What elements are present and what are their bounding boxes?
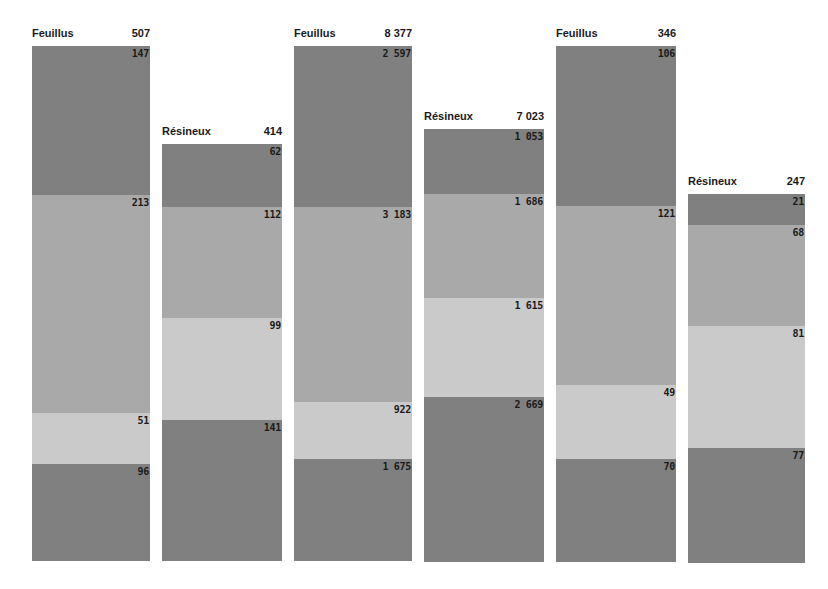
bar-rsineux-5: Résineux24721688177 (688, 194, 805, 563)
bar-segment: 121 (556, 206, 676, 385)
segment-value-label: 77 (793, 450, 804, 461)
bar-total-value: 414 (264, 125, 282, 141)
bar-feuillus-0: Feuillus5071472135196 (32, 46, 150, 561)
bar-segment: 2 597 (294, 46, 412, 207)
segment-value-label: 213 (132, 197, 149, 208)
bar-segment: 1 053 (424, 129, 544, 194)
segment-value-label: 1 615 (514, 300, 543, 311)
segment-value-label: 51 (138, 415, 149, 426)
bar-header: Résineux414 (162, 125, 282, 141)
segment-value-label: 112 (264, 209, 281, 220)
segment-value-label: 1 686 (514, 196, 543, 207)
bar-segment: 1 615 (424, 298, 544, 397)
bar-segment: 1 686 (424, 194, 544, 298)
segment-value-label: 141 (264, 422, 281, 433)
bar-segment: 21 (688, 194, 805, 225)
bar-total-value: 7 023 (516, 110, 544, 126)
bar-segment: 2 669 (424, 397, 544, 562)
bar-header: Résineux247 (688, 175, 805, 191)
bar-segment: 147 (32, 46, 150, 195)
bar-rsineux-3: Résineux7 0231 0531 6861 6152 669 (424, 129, 544, 562)
bar-header: Feuillus507 (32, 27, 150, 43)
segment-value-label: 68 (793, 227, 804, 238)
segment-value-label: 2 669 (514, 399, 543, 410)
segment-value-label: 21 (793, 196, 804, 207)
bar-feuillus-4: Feuillus3461061214970 (556, 46, 676, 562)
bar-segment: 141 (162, 420, 282, 561)
bar-segment: 99 (162, 318, 282, 420)
bar-segment: 1 675 (294, 459, 412, 561)
segment-value-label: 1 053 (514, 131, 543, 142)
bar-segment: 112 (162, 207, 282, 318)
bar-segment: 96 (32, 464, 150, 561)
bar-header: Résineux7 023 (424, 110, 544, 126)
bar-segment: 3 183 (294, 207, 412, 402)
bar-category-label: Feuillus (556, 27, 598, 43)
bar-category-label: Résineux (424, 110, 473, 126)
segment-value-label: 62 (270, 146, 281, 157)
bar-feuillus-2: Feuillus8 3772 5973 1839221 675 (294, 46, 412, 561)
segment-value-label: 81 (793, 328, 804, 339)
bar-segment: 81 (688, 326, 805, 448)
bar-category-label: Feuillus (32, 27, 74, 43)
segment-value-label: 922 (394, 404, 411, 415)
bar-segment: 49 (556, 385, 676, 459)
bar-header: Feuillus346 (556, 27, 676, 43)
bar-total-value: 346 (658, 27, 676, 43)
bar-category-label: Feuillus (294, 27, 336, 43)
bar-segment: 62 (162, 144, 282, 207)
bar-total-value: 507 (132, 27, 150, 43)
bar-segment: 51 (32, 413, 150, 464)
bar-segment: 213 (32, 195, 150, 413)
bar-segment: 106 (556, 46, 676, 206)
bar-header: Feuillus8 377 (294, 27, 412, 43)
segment-value-label: 2 597 (382, 48, 411, 59)
segment-value-label: 99 (270, 320, 281, 331)
bar-total-value: 247 (787, 175, 805, 191)
bar-segment: 922 (294, 402, 412, 459)
bar-category-label: Résineux (688, 175, 737, 191)
bar-segment: 70 (556, 459, 676, 562)
bar-rsineux-1: Résineux4146211299141 (162, 144, 282, 561)
segment-value-label: 96 (138, 466, 149, 477)
bar-segment: 77 (688, 448, 805, 563)
bar-segment: 68 (688, 225, 805, 326)
segment-value-label: 49 (664, 387, 675, 398)
segment-value-label: 106 (658, 48, 675, 59)
segment-value-label: 1 675 (382, 461, 411, 472)
bar-total-value: 8 377 (384, 27, 412, 43)
segment-value-label: 70 (664, 461, 675, 472)
segment-value-label: 3 183 (382, 209, 411, 220)
segment-value-label: 147 (132, 48, 149, 59)
bar-category-label: Résineux (162, 125, 211, 141)
segment-value-label: 121 (658, 208, 675, 219)
